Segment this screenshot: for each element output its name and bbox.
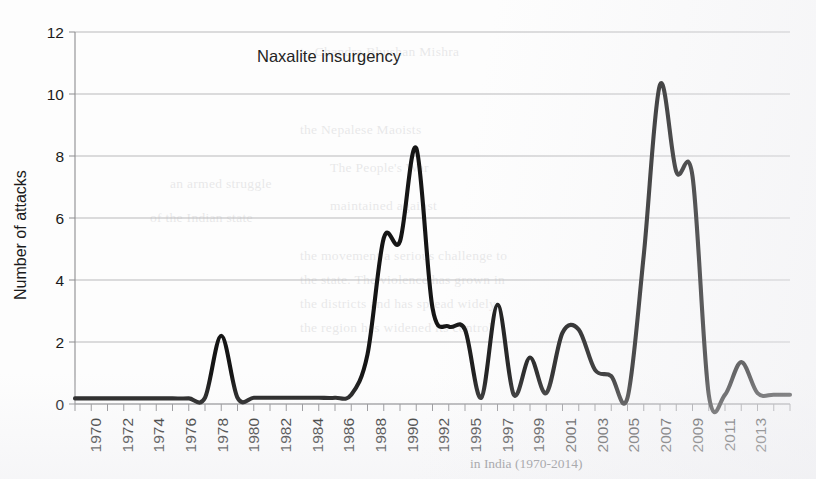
x-tick-label: 1972 — [119, 418, 136, 452]
x-tick-label: 1990 — [404, 418, 421, 453]
y-tick-label: 0 — [55, 396, 64, 413]
x-tick-label: 1984 — [309, 418, 326, 453]
x-tick-label: 1970 — [87, 418, 104, 453]
x-tick-label: 2005 — [625, 418, 642, 452]
x-tick-label: 1988 — [372, 418, 389, 452]
x-tick-label: 2007 — [657, 418, 674, 452]
x-tick-labels-group: 1970197219741976197819801982198419861988… — [87, 418, 769, 453]
chart-figure: 024681012 197019721974197619781980198219… — [0, 0, 816, 479]
data-line-series — [75, 83, 790, 412]
x-tick-label: 1992 — [435, 418, 452, 452]
x-tick-label: 2001 — [562, 418, 579, 452]
y-tick-label: 10 — [47, 86, 65, 103]
page-caption-faint: in India (1970-2014) — [470, 456, 582, 472]
gridlines-group — [69, 32, 790, 404]
x-tick-label: 2009 — [689, 418, 706, 452]
x-tick-label: 1978 — [214, 418, 231, 452]
x-tick-label: 1980 — [245, 418, 262, 453]
y-axis-title: Number of attacks — [12, 170, 29, 300]
x-tick-label: 1999 — [530, 418, 547, 452]
x-tick-label: 2011 — [721, 418, 738, 451]
x-tick-label: 1974 — [150, 418, 167, 453]
y-tick-label: 4 — [55, 272, 64, 289]
x-tick-label: 1976 — [182, 418, 199, 452]
x-tick-label: 1997 — [499, 418, 516, 452]
x-tick-label: 1986 — [340, 418, 357, 452]
y-tick-label: 2 — [55, 334, 64, 351]
y-tick-label: 6 — [55, 210, 64, 227]
x-tickmarks-group — [75, 404, 790, 411]
y-tick-label: 12 — [47, 24, 64, 41]
chart-annotation: Naxalite insurgency — [257, 47, 402, 65]
y-tick-label: 8 — [55, 148, 64, 165]
x-tick-label: 1995 — [467, 418, 484, 452]
x-tick-label: 1982 — [277, 418, 294, 452]
y-tick-labels-group: 024681012 — [47, 24, 65, 413]
chart-svg: 024681012 197019721974197619781980198219… — [0, 0, 816, 479]
x-tick-label: 2003 — [594, 418, 611, 452]
x-tick-label: 2013 — [752, 418, 769, 452]
